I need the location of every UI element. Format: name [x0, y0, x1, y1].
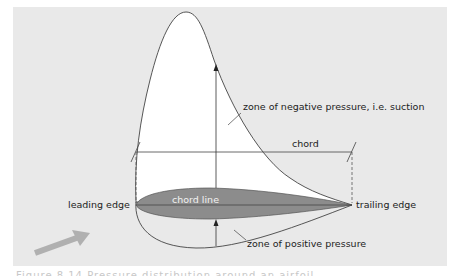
- airfoil-pressure-diagram: zone of negative pressure, i.e. suction …: [0, 0, 451, 276]
- leader-positive: [234, 230, 246, 240]
- airflow-arrow: [35, 236, 82, 253]
- label-trailing-edge: trailing edge: [356, 199, 416, 210]
- label-chord-line: chord line: [172, 194, 219, 205]
- label-leading-edge: leading edge: [68, 199, 130, 210]
- label-positive-pressure: zone of positive pressure: [247, 238, 366, 249]
- figure-caption: Figure 8.14 Pressure distribution around…: [16, 267, 446, 276]
- label-chord: chord: [292, 138, 319, 149]
- label-negative-pressure: zone of negative pressure, i.e. suction: [243, 101, 424, 112]
- airfoil-shape: [136, 188, 352, 219]
- pressure-arrowhead-icon: [214, 219, 219, 226]
